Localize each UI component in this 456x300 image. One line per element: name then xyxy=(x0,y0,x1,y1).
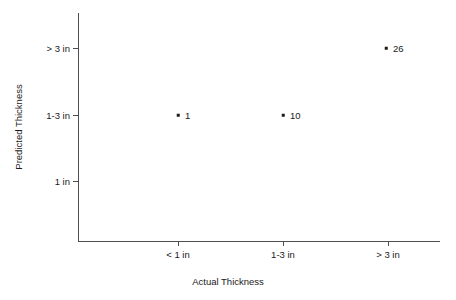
x-axis-title: Actual Thickness xyxy=(0,276,456,287)
y-axis-line xyxy=(78,13,79,241)
y-axis-title: Predicted Thickness xyxy=(13,84,24,169)
y-axis-tick-1 xyxy=(73,115,78,116)
y-axis-tick-0 xyxy=(73,48,78,49)
x-axis-tick-2 xyxy=(388,241,389,246)
y-axis-tick-label-1: 1-3 in xyxy=(46,110,70,121)
x-axis-tick-0 xyxy=(178,241,179,246)
data-point-marker xyxy=(282,114,285,117)
data-point-label: 26 xyxy=(393,43,404,54)
y-axis-tick-2 xyxy=(73,181,78,182)
x-axis-tick-label-1: 1-3 in xyxy=(271,249,295,260)
scatter-plot-figure: > 3 in 1-3 in 1 in < 1 in 1-3 in > 3 in … xyxy=(0,0,456,300)
data-point-label: 10 xyxy=(290,110,301,121)
x-axis-line xyxy=(78,241,440,242)
x-axis-tick-label-2: > 3 in xyxy=(376,249,400,260)
data-point-marker xyxy=(385,47,388,50)
y-axis-tick-label-2: 1 in xyxy=(55,176,70,187)
y-axis-tick-label-0: > 3 in xyxy=(46,43,70,54)
data-point-label: 1 xyxy=(185,110,190,121)
data-point-marker xyxy=(177,114,180,117)
x-axis-tick-1 xyxy=(283,241,284,246)
x-axis-tick-label-0: < 1 in xyxy=(166,249,190,260)
